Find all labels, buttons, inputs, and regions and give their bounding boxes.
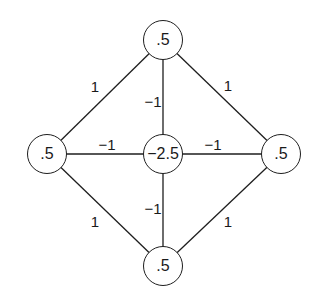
edge-weight-label: −1 <box>144 201 161 216</box>
edge-right-bottom <box>163 154 281 266</box>
edge-weight-label: 1 <box>224 78 232 93</box>
node-value: −2.5 <box>147 145 179 163</box>
graph-diagram: 11−1−1−1−111 .5.5−2.5.5.5 <box>0 0 320 303</box>
edge-weight-label: −1 <box>144 94 161 109</box>
edge-weight-label: 1 <box>91 79 99 94</box>
node-top: .5 <box>143 20 183 60</box>
node-bottom: .5 <box>143 246 183 286</box>
node-right: .5 <box>261 134 301 174</box>
edge-weight-label: −1 <box>98 137 115 152</box>
edge-weight-label: 1 <box>224 214 232 229</box>
node-center: −2.5 <box>143 134 183 174</box>
node-value: .5 <box>274 145 287 163</box>
edge-top-right <box>163 40 281 154</box>
node-left: .5 <box>27 134 67 174</box>
edge-weight-label: 1 <box>91 214 99 229</box>
node-value: .5 <box>40 145 53 163</box>
edge-weight-label: −1 <box>204 137 221 152</box>
node-value: .5 <box>156 257 169 275</box>
node-value: .5 <box>156 31 169 49</box>
